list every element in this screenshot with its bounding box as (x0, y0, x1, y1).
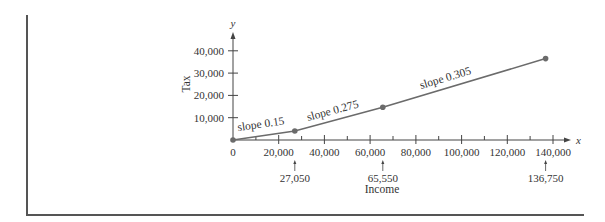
x-tick-label: 40,000 (309, 146, 340, 158)
y-axis-variable: y (230, 17, 236, 29)
x-tick-label: 120,000 (489, 146, 525, 158)
tax-chart: y 10,000 20,000 30,000 40,000 Tax x 0 20… (0, 0, 605, 222)
up-arrow-icon (381, 160, 384, 164)
data-point (543, 56, 549, 62)
up-arrow-icon (293, 160, 296, 164)
x-tick-label: 60,000 (355, 146, 386, 158)
y-tick-label: 20,000 (194, 89, 225, 101)
svg-text:27,050: 27,050 (280, 172, 311, 184)
y-tick-label: 40,000 (194, 45, 225, 57)
breakpoint-annotations: 27,050 65,550 136,750 (280, 160, 564, 184)
x-axis-title: Income (365, 183, 399, 195)
segment-label: slope 0.15 (237, 114, 286, 133)
svg-text:65,550: 65,550 (368, 172, 399, 184)
y-tick-label: 10,000 (194, 112, 225, 124)
up-arrow-icon (544, 160, 547, 164)
breakpoint-136750: 136,750 (528, 160, 564, 184)
x-axis-variable: x (575, 134, 581, 146)
svg-text:136,750: 136,750 (528, 172, 564, 184)
data-point (292, 128, 298, 134)
y-tick-label: 30,000 (194, 67, 225, 79)
y-axis: y 10,000 20,000 30,000 40,000 Tax (180, 17, 238, 140)
data-point (380, 105, 386, 111)
data-point (230, 137, 236, 143)
x-tick-label: 20,000 (264, 146, 295, 158)
x-tick-label: 80,000 (401, 146, 432, 158)
x-axis: x 0 20,000 40,000 60,000 80,000 100,000 … (230, 134, 581, 195)
tax-series (230, 56, 548, 143)
breakpoint-65550: 65,550 (368, 160, 399, 184)
x-tick-label: 140,000 (535, 146, 571, 158)
x-axis-arrow-icon (564, 138, 571, 143)
y-axis-title: Tax (180, 75, 192, 92)
breakpoint-27050: 27,050 (280, 160, 311, 184)
y-axis-arrow-icon (231, 32, 236, 39)
x-tick-label: 100,000 (444, 146, 480, 158)
x-tick-label-origin: 0 (230, 146, 236, 158)
